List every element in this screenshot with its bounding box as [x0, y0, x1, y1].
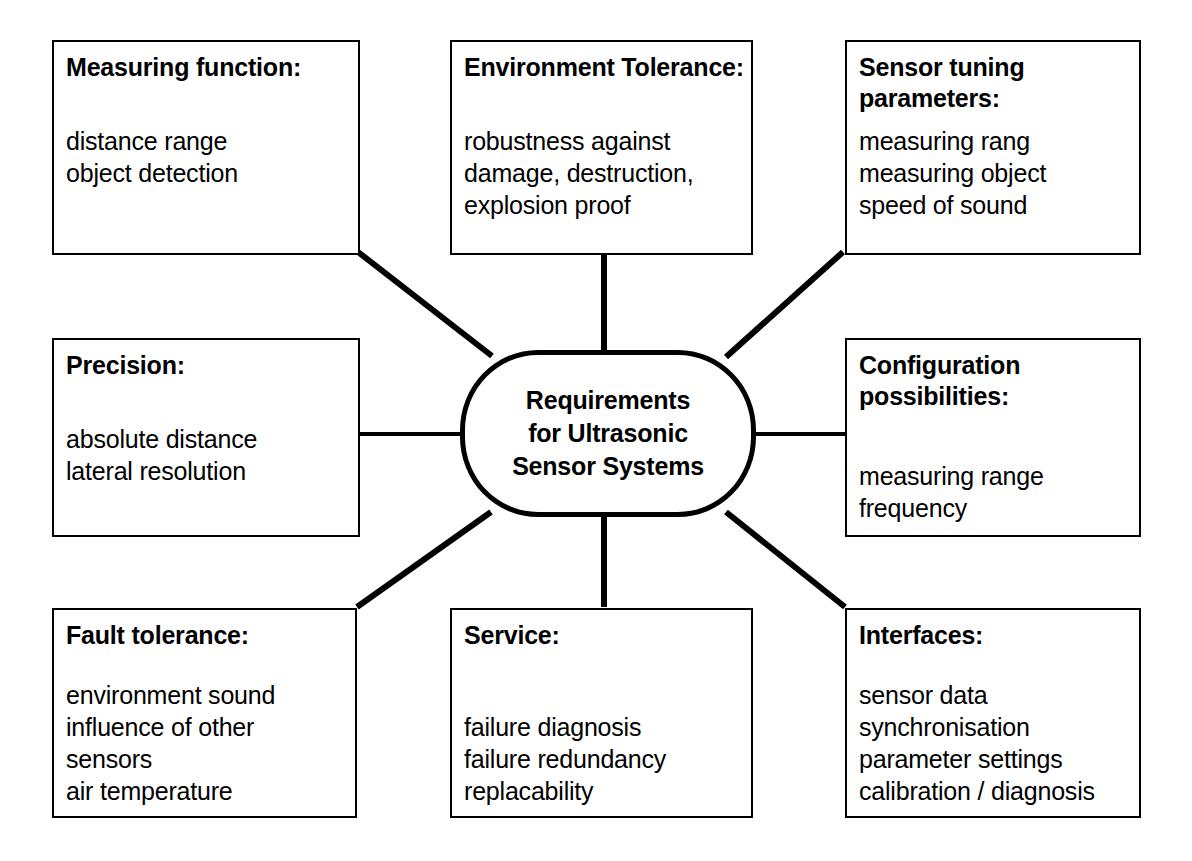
node-items-sensor-tuning: measuring rang measuring object speed of…	[859, 125, 1139, 221]
node-service[interactable]: Service: failure diagnosis failure redun…	[450, 608, 753, 818]
node-title-configuration: Configuration possibilities:	[859, 350, 1139, 412]
list-item: distance range	[66, 125, 358, 157]
list-item: object detection	[66, 157, 358, 189]
list-item: measuring object	[859, 157, 1139, 189]
node-fault-tolerance[interactable]: Fault tolerance: environment sound influ…	[52, 608, 357, 818]
diagram-canvas: Measuring function: distance range objec…	[0, 0, 1192, 861]
list-item: measuring rang	[859, 125, 1139, 157]
node-items-fault-tolerance: environment sound influence of other sen…	[66, 679, 355, 807]
node-configuration[interactable]: Configuration possibilities: measuring r…	[845, 338, 1141, 537]
connector-sensor-tuning	[726, 252, 843, 357]
node-title-interfaces: Interfaces:	[859, 620, 1139, 651]
list-item: influence of other	[66, 711, 355, 743]
node-items-measuring-function: distance range object detection	[66, 125, 358, 189]
list-item: air temperature	[66, 775, 355, 807]
list-item: sensor data	[859, 679, 1139, 711]
list-item: environment sound	[66, 679, 355, 711]
list-item: replacability	[464, 775, 751, 807]
list-item: damage, destruction,	[464, 157, 751, 189]
list-item: explosion proof	[464, 189, 751, 221]
node-items-environment-tolerance: robustness against damage, destruction, …	[464, 125, 751, 221]
node-items-service: failure diagnosis failure redundancy rep…	[464, 711, 751, 807]
list-item: synchronisation	[859, 711, 1139, 743]
list-item: failure diagnosis	[464, 711, 751, 743]
list-item: speed of sound	[859, 189, 1139, 221]
connector-interfaces	[726, 512, 845, 607]
node-items-configuration: measuring range frequency	[859, 460, 1139, 524]
center-node[interactable]: Requirements for Ultrasonic Sensor Syste…	[460, 350, 756, 517]
node-environment-tolerance[interactable]: Environment Tolerance: robustness agains…	[450, 40, 753, 255]
connector-measuring-function	[358, 252, 492, 356]
list-item: frequency	[859, 492, 1139, 524]
center-node-label: Requirements for Ultrasonic Sensor Syste…	[512, 384, 704, 483]
list-item: measuring range	[859, 460, 1139, 492]
node-title-precision: Precision:	[66, 350, 358, 381]
node-title-service: Service:	[464, 620, 751, 651]
list-item: lateral resolution	[66, 455, 358, 487]
node-title-fault-tolerance: Fault tolerance:	[66, 620, 355, 651]
list-item: robustness against	[464, 125, 751, 157]
list-item: parameter settings	[859, 743, 1139, 775]
connector-fault-tolerance	[357, 512, 491, 607]
node-title-sensor-tuning: Sensor tuning parameters:	[859, 52, 1139, 114]
list-item: absolute distance	[66, 423, 358, 455]
node-measuring-function[interactable]: Measuring function: distance range objec…	[52, 40, 360, 255]
node-items-interfaces: sensor data synchronisation parameter se…	[859, 679, 1139, 807]
node-sensor-tuning[interactable]: Sensor tuning parameters: measuring rang…	[845, 40, 1141, 255]
node-interfaces[interactable]: Interfaces: sensor data synchronisation …	[845, 608, 1141, 818]
node-title-measuring-function: Measuring function:	[66, 52, 358, 83]
list-item: sensors	[66, 743, 355, 775]
list-item: failure redundancy	[464, 743, 751, 775]
node-precision[interactable]: Precision: absolute distance lateral res…	[52, 338, 360, 537]
node-title-environment-tolerance: Environment Tolerance:	[464, 52, 751, 83]
list-item: calibration / diagnosis	[859, 775, 1139, 807]
node-items-precision: absolute distance lateral resolution	[66, 423, 358, 487]
